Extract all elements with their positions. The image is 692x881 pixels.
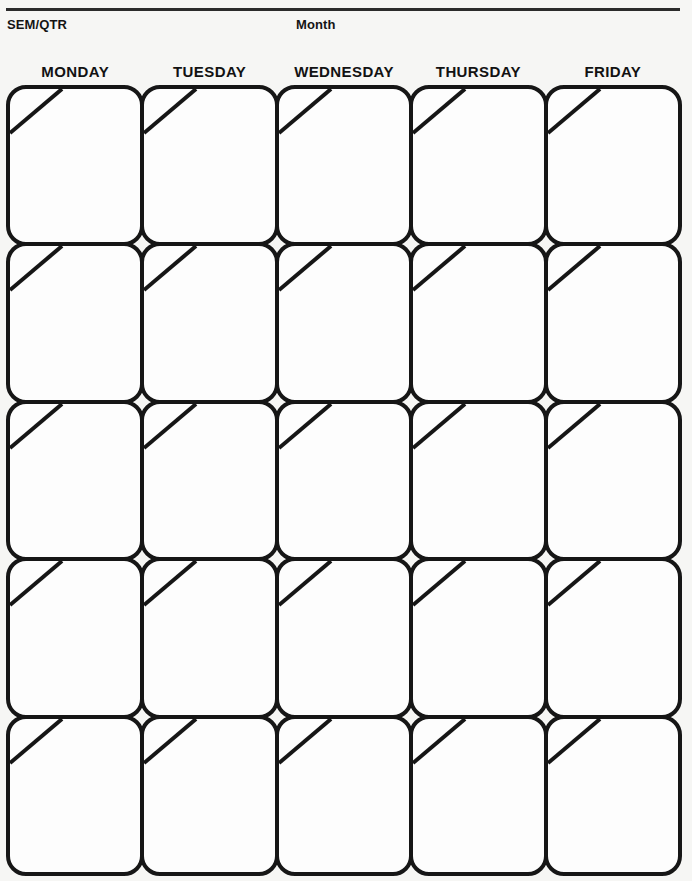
header-rule [6, 8, 680, 11]
day-cell-writing-area[interactable] [10, 246, 140, 399]
day-cell[interactable] [409, 85, 547, 246]
day-cell-writing-area[interactable] [413, 719, 543, 872]
day-cell[interactable] [140, 85, 278, 246]
day-cell[interactable] [544, 242, 682, 403]
day-cell[interactable] [6, 557, 144, 718]
day-cell-writing-area[interactable] [144, 246, 274, 399]
day-cell-writing-area[interactable] [279, 89, 409, 242]
day-cell-writing-area[interactable] [10, 89, 140, 242]
day-cell[interactable] [409, 715, 547, 876]
sem-qtr-label[interactable]: SEM/QTR [7, 16, 67, 34]
day-cell-writing-area[interactable] [548, 89, 678, 242]
day-cell-writing-area[interactable] [279, 404, 409, 557]
day-cell[interactable] [275, 85, 413, 246]
weekday-header-wednesday: WEDNESDAY [277, 62, 411, 86]
day-cell[interactable] [6, 400, 144, 561]
calendar-grid [8, 87, 680, 874]
meta-header: SEM/QTR Month [0, 16, 692, 38]
day-cell[interactable] [544, 557, 682, 718]
day-cell[interactable] [6, 85, 144, 246]
day-cell-writing-area[interactable] [144, 89, 274, 242]
day-cell[interactable] [544, 85, 682, 246]
day-cell-writing-area[interactable] [548, 246, 678, 399]
day-cell[interactable] [409, 400, 547, 561]
day-cell-writing-area[interactable] [548, 561, 678, 714]
day-cell-writing-area[interactable] [144, 404, 274, 557]
day-cell-writing-area[interactable] [279, 719, 409, 872]
day-cell-writing-area[interactable] [548, 719, 678, 872]
calendar-page: SEM/QTR Month MONDAY TUESDAY WEDNESDAY T… [0, 0, 692, 881]
day-cell[interactable] [409, 242, 547, 403]
day-cell[interactable] [275, 557, 413, 718]
day-cell[interactable] [409, 557, 547, 718]
day-cell[interactable] [544, 400, 682, 561]
day-cell-writing-area[interactable] [413, 404, 543, 557]
day-cell[interactable] [140, 557, 278, 718]
day-cell-writing-area[interactable] [10, 561, 140, 714]
day-cell-writing-area[interactable] [413, 561, 543, 714]
weekday-header-monday: MONDAY [8, 62, 142, 86]
day-cell[interactable] [6, 715, 144, 876]
day-cell-writing-area[interactable] [144, 719, 274, 872]
day-cell[interactable] [6, 242, 144, 403]
weekday-header-friday: FRIDAY [546, 62, 680, 86]
day-cell[interactable] [275, 400, 413, 561]
day-cell[interactable] [140, 715, 278, 876]
day-cell-writing-area[interactable] [413, 246, 543, 399]
day-cell[interactable] [140, 400, 278, 561]
day-cell[interactable] [140, 242, 278, 403]
day-cell-writing-area[interactable] [144, 561, 274, 714]
day-cell-writing-area[interactable] [279, 561, 409, 714]
day-cell-writing-area[interactable] [548, 404, 678, 557]
day-cell[interactable] [275, 715, 413, 876]
day-cell[interactable] [275, 242, 413, 403]
month-label[interactable]: Month [296, 16, 335, 34]
day-cell-writing-area[interactable] [10, 404, 140, 557]
day-cell[interactable] [544, 715, 682, 876]
weekday-header-tuesday: TUESDAY [142, 62, 276, 86]
day-cell-writing-area[interactable] [413, 89, 543, 242]
weekday-header-row: MONDAY TUESDAY WEDNESDAY THURSDAY FRIDAY [8, 62, 680, 86]
day-cell-writing-area[interactable] [279, 246, 409, 399]
day-cell-writing-area[interactable] [10, 719, 140, 872]
weekday-header-thursday: THURSDAY [411, 62, 545, 86]
